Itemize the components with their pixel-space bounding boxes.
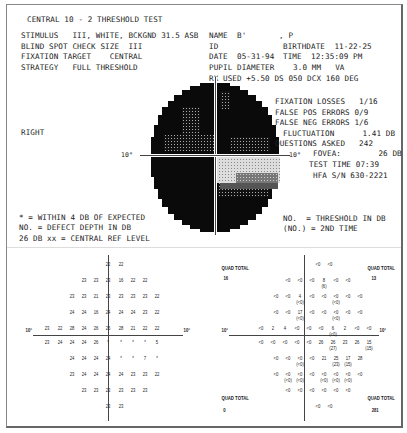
- threshold-value: 23: [341, 339, 349, 345]
- threshold-value: <0: [293, 339, 301, 345]
- threshold-value: <0: [356, 371, 364, 377]
- threshold-value: <0: [308, 371, 316, 377]
- defect-value: 23: [104, 403, 112, 409]
- defect-value: 24: [104, 371, 112, 377]
- defect-value: *: [153, 355, 161, 361]
- left-grid-axis-label-left: 10°: [26, 327, 32, 333]
- left-grid-horizontal-axis: [33, 335, 183, 336]
- defect-value: 23: [117, 387, 125, 393]
- threshold-value: <0: [332, 277, 340, 283]
- printout-frame: CENTRAL 10 - 2 THRESHOLD TEST STIMULUS I…: [6, 4, 403, 428]
- threshold-second-value: (<0): [332, 377, 340, 383]
- legend-second-time: (NO.) = 2ND TIME: [283, 224, 358, 233]
- defect-value: 24: [80, 355, 88, 361]
- defect-value: 22: [153, 325, 161, 331]
- defect-value: 24: [56, 339, 64, 345]
- threshold-value: <0: [308, 387, 316, 393]
- threshold-second-value: (6): [320, 283, 328, 289]
- defect-value: 23: [129, 387, 137, 393]
- defect-value: 22: [129, 277, 137, 283]
- birthdate: BIRTHDATE 11-22-25: [283, 42, 372, 51]
- quad-total-tl: 16: [223, 275, 228, 281]
- greyscale-axis-label-left: 10°: [121, 151, 133, 160]
- defect-value: 23: [68, 293, 76, 299]
- defect-value: 26: [92, 325, 100, 331]
- threshold-value: <0: [269, 339, 277, 345]
- defect-value: 21: [129, 325, 137, 331]
- defect-value: 23: [104, 277, 112, 283]
- threshold-second-value: (<0): [284, 377, 292, 383]
- defect-value: 23: [80, 293, 88, 299]
- threshold-value: <0: [344, 309, 352, 315]
- defect-value: 23: [117, 403, 125, 409]
- defect-value: 23: [92, 387, 100, 393]
- quad-total-label-bl: QUAD TOTAL: [221, 395, 248, 401]
- threshold-value: <0: [296, 277, 304, 283]
- threshold-value: <0: [284, 293, 292, 299]
- fovea: FOVEA: 26 DB: [313, 149, 402, 158]
- threshold-value: <0: [272, 355, 280, 361]
- defect-value: 24: [117, 371, 125, 377]
- defect-value: 24: [129, 309, 137, 315]
- defect-value: *: [141, 339, 149, 345]
- quad-total-bl: 0: [223, 407, 225, 413]
- defect-value: 23: [43, 339, 51, 345]
- defect-value: 24: [92, 371, 100, 377]
- defect-value: 22: [117, 261, 125, 267]
- threshold-value: <0: [257, 325, 265, 331]
- threshold-value: 2: [341, 325, 349, 331]
- threshold-second-value: (<0): [332, 299, 340, 305]
- defect-value: *: [129, 339, 137, 345]
- threshold-value: <0: [320, 309, 328, 315]
- threshold-value: <0: [284, 309, 292, 315]
- questions-asked: QUESTIONS ASKED 242: [275, 139, 373, 148]
- section-divider: [7, 247, 401, 248]
- legend-within: * = WITHIN 4 DB OF EXPECTED: [19, 213, 145, 222]
- defect-value: 22: [153, 371, 161, 377]
- defect-value: 7: [141, 355, 149, 361]
- false-pos-errors: FALSE POS ERRORS 0/9: [275, 108, 368, 117]
- defect-value: 24: [68, 355, 76, 361]
- defect-value: 26: [92, 339, 100, 345]
- threshold-value: 2: [269, 325, 277, 331]
- defect-value: 24: [68, 339, 76, 345]
- defect-value: 22: [153, 293, 161, 299]
- legend-defect: NO. = DEFECT DEPTH IN DB: [19, 223, 131, 232]
- threshold-value: <0: [293, 325, 301, 331]
- threshold-second-value: (<0): [320, 377, 328, 383]
- test-duration: TEST TIME 07:39: [309, 160, 379, 169]
- false-neg-errors: FALSE NEG ERRORS 1/6: [275, 118, 368, 127]
- right-grid-horizontal-axis: [229, 335, 379, 336]
- blind-spot-text: BLIND SPOT CHECK SIZE III: [21, 42, 142, 51]
- threshold-value: <0: [305, 325, 313, 331]
- threshold-value: <0: [314, 403, 322, 409]
- threshold-value: <0: [272, 309, 280, 315]
- threshold-value: <0: [305, 339, 313, 345]
- threshold-value: <0: [344, 277, 352, 283]
- patient-id: ID: [209, 42, 218, 51]
- threshold-second-value: (<0): [296, 377, 304, 383]
- defect-value: 28: [68, 325, 76, 331]
- defect-value: 23: [117, 293, 125, 299]
- threshold-value: <0: [308, 309, 316, 315]
- test-title: CENTRAL 10 - 2 THRESHOLD TEST: [27, 15, 162, 24]
- threshold-value: <0: [314, 261, 322, 267]
- threshold-value: <0: [365, 325, 373, 331]
- threshold-value: 28: [356, 355, 364, 361]
- quad-total-label-br: QUAD TOTAL: [367, 395, 394, 401]
- threshold-second-value: (<0): [329, 331, 337, 337]
- defect-value: 24: [104, 309, 112, 315]
- threshold-value: <0: [326, 261, 334, 267]
- threshold-value: <0: [326, 403, 334, 409]
- defect-value: *: [117, 355, 125, 361]
- threshold-value: <0: [344, 293, 352, 299]
- defect-value: 24: [117, 309, 125, 315]
- threshold-value: <0: [317, 325, 325, 331]
- defect-value: 24: [68, 309, 76, 315]
- threshold-value: 26: [353, 339, 361, 345]
- fluctuation: FLUCTUATION 1.41 DB: [283, 129, 395, 138]
- right-grid-axis-label-right: 10°: [380, 327, 386, 333]
- eye-label: RIGHT: [21, 128, 44, 137]
- threshold-value: <0: [320, 387, 328, 393]
- threshold-value: <0: [296, 387, 304, 393]
